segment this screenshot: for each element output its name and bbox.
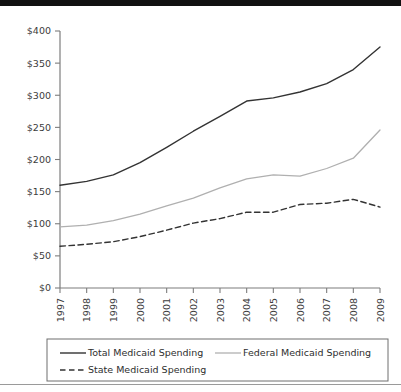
- y-axis-ticks: [55, 31, 60, 288]
- y-tick-label: $150: [27, 186, 51, 197]
- x-tick-label: 2007: [321, 298, 332, 322]
- y-tick-label: $300: [27, 90, 51, 101]
- x-tick-label: 1997: [55, 298, 66, 322]
- y-tick-label: $100: [27, 218, 51, 229]
- y-tick-label: $0: [39, 282, 51, 293]
- y-axis-tick-labels: $0$50$100$150$200$250$300$350$400: [27, 25, 51, 293]
- x-tick-label: 2009: [375, 298, 386, 322]
- data-series-group: [60, 47, 380, 246]
- x-tick-label: 2003: [215, 298, 226, 322]
- y-axis-group: $0$50$100$150$200$250$300$350$400: [27, 25, 60, 293]
- x-tick-label: 1999: [108, 298, 119, 322]
- legend-label: Total Medicaid Spending: [87, 347, 203, 358]
- x-axis-tick-labels: 1997199819992000200120022003200420052006…: [55, 298, 386, 322]
- x-axis-group: 1997199819992000200120022003200420052006…: [55, 288, 386, 322]
- x-tick-label: 2004: [241, 298, 252, 322]
- legend-label: State Medicaid Spending: [88, 364, 206, 375]
- legend-label: Federal Medicaid Spending: [243, 347, 371, 358]
- chart-canvas: $0$50$100$150$200$250$300$350$400 199719…: [0, 6, 401, 384]
- legend-entries: Total Medicaid SpendingFederal Medicaid …: [60, 347, 371, 375]
- series-line-total-medicaid-spending: [60, 47, 380, 185]
- x-tick-label: 2005: [268, 298, 279, 322]
- y-tick-label: $200: [27, 154, 51, 165]
- series-line-federal-medicaid-spending: [60, 130, 380, 227]
- screenshot-page: $0$50$100$150$200$250$300$350$400 199719…: [0, 0, 401, 392]
- y-tick-label: $400: [27, 25, 51, 36]
- x-tick-label: 2008: [348, 298, 359, 322]
- x-tick-label: 2006: [295, 298, 306, 322]
- series-line-state-medicaid-spending: [60, 199, 380, 246]
- x-tick-label: 2002: [188, 298, 199, 322]
- medicaid-spending-line-chart: $0$50$100$150$200$250$300$350$400 199719…: [0, 6, 401, 384]
- x-axis-ticks: [60, 288, 380, 293]
- y-tick-label: $250: [27, 122, 51, 133]
- footer-divider-rule: [0, 384, 401, 385]
- y-tick-label: $50: [33, 250, 51, 261]
- x-tick-label: 2001: [161, 298, 172, 322]
- legend-border: [47, 339, 388, 381]
- legend-box: Total Medicaid SpendingFederal Medicaid …: [47, 339, 388, 381]
- y-tick-label: $350: [27, 58, 51, 69]
- x-tick-label: 1998: [81, 298, 92, 322]
- x-tick-label: 2000: [135, 298, 146, 322]
